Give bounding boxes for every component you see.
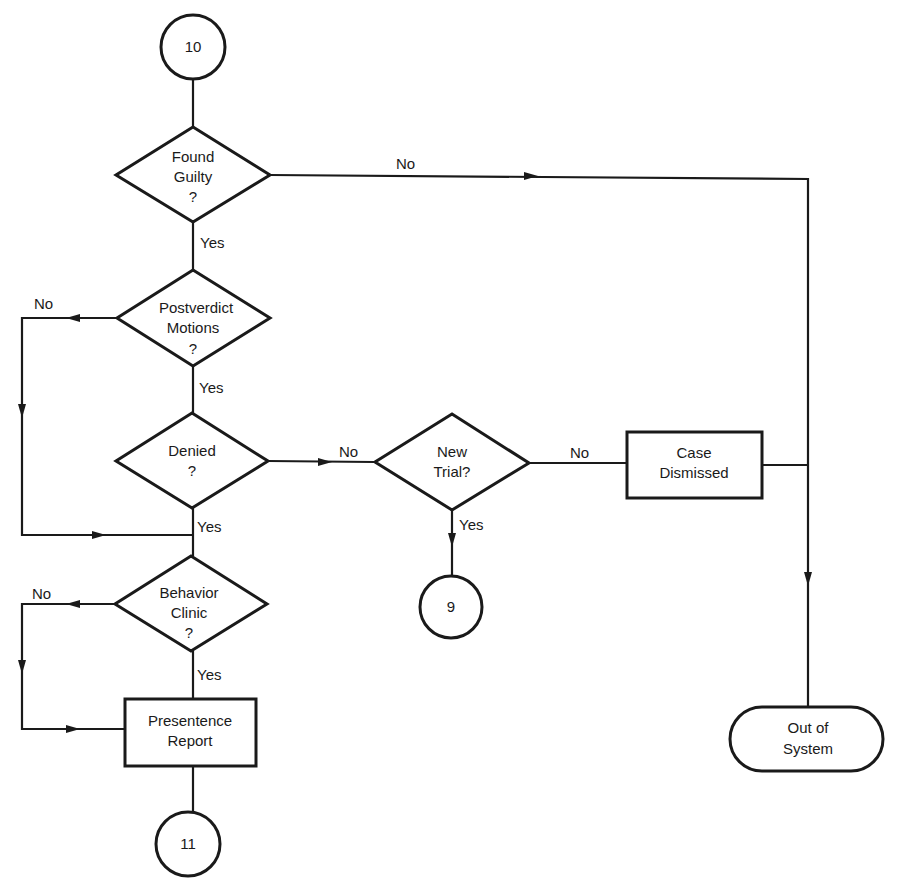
arrow-down-icon bbox=[18, 404, 26, 418]
label-found-guilty-no: No bbox=[396, 155, 415, 172]
decision-postverdict-motions[interactable]: Postverdict Motions ? bbox=[117, 270, 270, 366]
connector-9-label: 9 bbox=[447, 598, 455, 615]
presentence-line-2: Report bbox=[167, 732, 213, 749]
decision-new-trial[interactable]: New Trial? bbox=[375, 414, 529, 510]
found-guilty-line-1: Found bbox=[172, 148, 215, 165]
new-trial-line-2: Trial? bbox=[434, 463, 471, 480]
decision-found-guilty[interactable]: Found Guilty ? bbox=[116, 127, 270, 222]
terminator-out-of-system[interactable]: Out of System bbox=[730, 707, 883, 771]
out-of-system-line-2: System bbox=[783, 740, 833, 757]
arrow-down-icon bbox=[804, 572, 812, 586]
out-of-system-line-1: Out of bbox=[788, 719, 830, 736]
found-guilty-line-3: ? bbox=[189, 188, 197, 205]
label-denied-yes: Yes bbox=[197, 518, 221, 535]
label-new-trial-no: No bbox=[570, 444, 589, 461]
arrow-right-icon bbox=[92, 531, 106, 539]
arrow-right-icon bbox=[66, 725, 80, 733]
found-guilty-line-2: Guilty bbox=[174, 168, 213, 185]
connector-10[interactable]: 10 bbox=[161, 15, 225, 79]
arrow-down-icon bbox=[18, 660, 26, 674]
label-denied-no: No bbox=[339, 443, 358, 460]
arrow-right-icon bbox=[524, 172, 538, 180]
label-found-guilty-yes: Yes bbox=[200, 234, 224, 251]
denied-line-2: ? bbox=[188, 462, 196, 479]
process-presentence-report[interactable]: Presentence Report bbox=[125, 699, 256, 766]
arrow-left-icon bbox=[66, 600, 80, 608]
arrow-left-icon bbox=[66, 314, 80, 322]
decision-behavior-clinic[interactable]: Behavior Clinic ? bbox=[115, 556, 267, 651]
arrow-down-icon bbox=[448, 533, 456, 547]
decision-denied[interactable]: Denied ? bbox=[116, 413, 268, 508]
postverdict-line-3: ? bbox=[189, 340, 197, 357]
postverdict-line-1: Postverdict bbox=[159, 299, 234, 316]
behavior-clinic-line-1: Behavior bbox=[159, 584, 218, 601]
behavior-clinic-line-3: ? bbox=[185, 624, 193, 641]
label-new-trial-yes: Yes bbox=[459, 516, 483, 533]
process-case-dismissed[interactable]: Case Dismissed bbox=[627, 432, 762, 498]
connector-9[interactable]: 9 bbox=[420, 576, 482, 638]
case-dismissed-line-1: Case bbox=[676, 444, 711, 461]
label-postverdict-no: No bbox=[34, 295, 53, 312]
connector-10-label: 10 bbox=[185, 38, 202, 55]
presentence-line-1: Presentence bbox=[148, 712, 232, 729]
edge-behavior-no bbox=[22, 604, 124, 729]
label-behavior-no: No bbox=[32, 585, 51, 602]
label-behavior-yes: Yes bbox=[197, 666, 221, 683]
arrow-right-icon bbox=[318, 458, 332, 466]
behavior-clinic-line-2: Clinic bbox=[171, 604, 208, 621]
flowchart-canvas: 10 Found Guilty ? Postverdict Motions ? … bbox=[0, 0, 909, 894]
connector-11[interactable]: 11 bbox=[156, 812, 220, 876]
label-postverdict-yes: Yes bbox=[199, 379, 223, 396]
connector-11-label: 11 bbox=[180, 835, 196, 852]
denied-line-1: Denied bbox=[168, 442, 216, 459]
case-dismissed-line-2: Dismissed bbox=[659, 464, 728, 481]
new-trial-line-1: New bbox=[437, 443, 467, 460]
postverdict-line-2: Motions bbox=[167, 319, 220, 336]
